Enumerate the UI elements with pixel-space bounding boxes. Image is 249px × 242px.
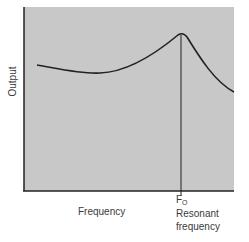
resonant-label-line1: Resonant (176, 208, 219, 219)
f0-sub: O (182, 199, 187, 206)
plot-area (24, 7, 234, 191)
resonant-label-line2: frequency (176, 221, 220, 232)
x-axis-label: Frequency (78, 206, 125, 217)
f0-label: FO (176, 194, 188, 206)
y-axis-label: Output (7, 64, 18, 100)
